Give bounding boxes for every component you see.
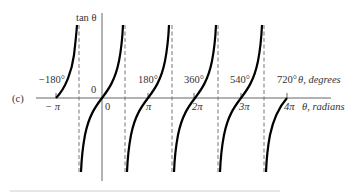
label-deg-720: 720°: [277, 74, 297, 85]
branch-540: [220, 25, 262, 172]
branch-partial-left: [56, 25, 77, 98]
y-axis-label: tan θ: [76, 12, 96, 23]
tangent-chart: (c) tan θ −180° 0 180° 360° 540° 720° θ,…: [0, 0, 364, 192]
label-zero-bottom: 0: [105, 101, 110, 112]
degrees-axis-title: θ, degrees: [298, 74, 341, 85]
label-rad-3pi: 3π: [238, 101, 250, 112]
label-deg-neg180: −180°: [39, 74, 65, 85]
radians-axis-title: θ, radians: [302, 101, 345, 112]
label-rad-4pi: 4π: [284, 101, 295, 112]
branch-180: [127, 25, 169, 172]
label-rad-2pi: 2π: [192, 101, 203, 112]
asymptotes: [79, 25, 264, 172]
label-rad-negpi: − π: [45, 101, 61, 112]
panel-label: (c): [12, 93, 24, 105]
tan-curves: [56, 25, 287, 172]
label-zero-top: 0: [91, 84, 96, 95]
label-rad-pi: π: [146, 101, 152, 112]
label-deg-540: 540°: [230, 74, 250, 85]
label-deg-180: 180°: [138, 74, 158, 85]
branch-360: [174, 25, 216, 172]
bottom-rule-divider: [10, 190, 280, 192]
label-deg-360: 360°: [184, 74, 204, 85]
